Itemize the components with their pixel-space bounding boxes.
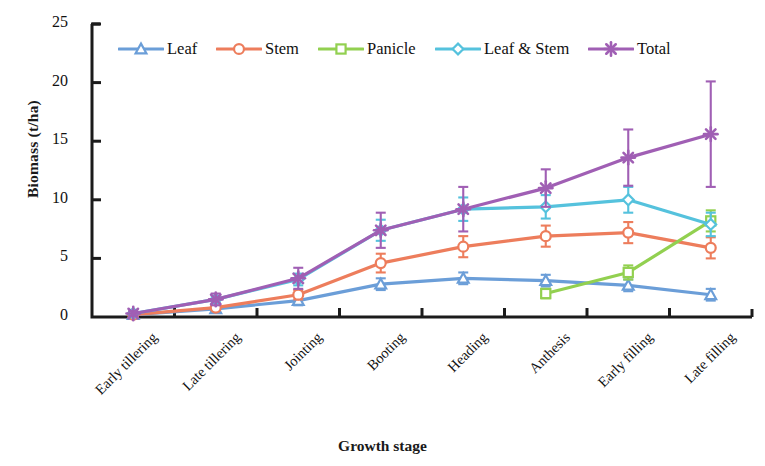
chart-plot-area (0, 0, 765, 466)
y-tick-label: 0 (22, 306, 68, 324)
legend-label: Leaf & Stem (484, 39, 569, 59)
legend-item-leaf-stem[interactable]: Leaf & Stem (435, 38, 569, 60)
legend-label: Panicle (367, 39, 416, 59)
legend-marker-circle-icon (216, 42, 262, 56)
y-tick-label: 15 (22, 130, 68, 148)
data-series-layer (127, 81, 718, 320)
y-tick-label: 25 (22, 13, 68, 31)
legend-marker-asterisk-icon (588, 42, 634, 56)
legend-item-panicle[interactable]: Panicle (318, 38, 416, 60)
legend-label: Total (637, 39, 671, 59)
legend-marker-triangle-icon (118, 42, 164, 56)
biomass-growth-stage-chart: Biomass (t/ha) Growth stage 0510152025 E… (0, 0, 765, 466)
legend-label: Leaf (167, 39, 197, 59)
x-axis-title: Growth stage (0, 437, 765, 455)
y-tick-label: 20 (22, 72, 68, 90)
axes (91, 24, 752, 317)
y-tick-label: 5 (22, 247, 68, 265)
legend-label: Stem (265, 39, 299, 59)
legend-marker-square-icon (318, 42, 364, 56)
legend-marker-diamond-icon (435, 42, 481, 56)
legend-item-stem[interactable]: Stem (216, 38, 299, 60)
y-tick-label: 10 (22, 189, 68, 207)
legend-item-leaf[interactable]: Leaf (118, 38, 197, 60)
legend-item-total[interactable]: Total (588, 38, 671, 60)
